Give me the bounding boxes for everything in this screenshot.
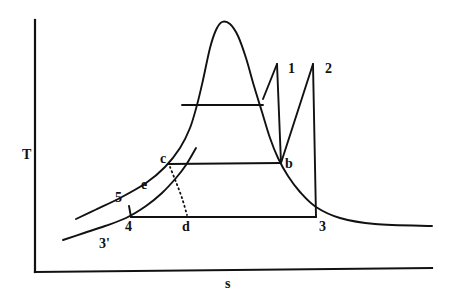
state-point-label-2: 2 [325, 62, 332, 76]
state-point-label-4: 4 [125, 220, 132, 234]
state-point-label-5: 5 [115, 191, 122, 205]
x-axis [35, 268, 432, 272]
state-point-label-e: e [141, 178, 147, 192]
curve-saturation-dome [76, 22, 432, 226]
curve-line-1-to-b [277, 64, 281, 163]
state-point-label-c: c [160, 152, 166, 166]
x-axis-label: s [225, 277, 230, 291]
curve-line-1-to-dome [263, 64, 277, 99]
state-point-label-b: b [285, 157, 293, 171]
state-point-label-3: 3 [319, 220, 326, 234]
state-point-label-1: 1 [288, 62, 295, 76]
state-point-label-3-prime: 3' [99, 237, 110, 251]
ts-diagram-figure: T s 1 2 3 3' 4 5 b c d e [0, 0, 449, 302]
curve-isobar-c-to-b [168, 163, 281, 164]
curve-line-b-to-2 [281, 64, 313, 163]
ts-diagram-canvas [0, 0, 449, 302]
curve-line-2-to-3 [313, 64, 316, 217]
y-axis-label: T [22, 148, 31, 162]
state-point-label-d: d [182, 220, 190, 234]
